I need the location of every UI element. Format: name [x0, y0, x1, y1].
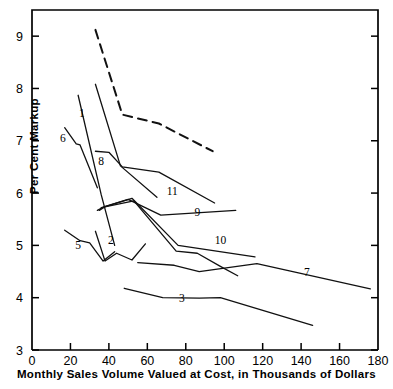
- x-tick-label: 60: [140, 354, 154, 368]
- x-axis-title: Monthly Sales Volume Valued at Cost, in …: [0, 368, 393, 380]
- plot-frame: [32, 10, 378, 350]
- axis-tick-labels: 3456789020406080100120140160180: [16, 30, 388, 368]
- series-label-2: 2: [108, 234, 114, 246]
- series-line-7: [138, 263, 371, 289]
- series-label-7: 7: [304, 266, 310, 278]
- y-axis-title: Per Cent Markup: [28, 86, 40, 206]
- y-tick-label: 9: [16, 30, 23, 44]
- series-label-5: 5: [75, 239, 81, 251]
- x-tick-label: 140: [291, 354, 312, 368]
- x-tick-label: 180: [368, 354, 389, 368]
- y-tick-label: 5: [16, 239, 23, 253]
- x-tick-label: 20: [63, 354, 77, 368]
- series-line-dashed: [95, 30, 212, 151]
- y-tick-label: 3: [16, 344, 23, 358]
- chart-container: 3456789020406080100120140160180 12356789…: [0, 0, 393, 389]
- series-label-9: 9: [194, 206, 200, 218]
- x-tick-label: 120: [252, 354, 273, 368]
- series-label-6: 6: [60, 132, 66, 144]
- y-tick-label: 4: [16, 291, 23, 305]
- series-label-1: 1: [79, 107, 85, 119]
- series-line-10: [99, 198, 255, 257]
- series-line-9: [97, 199, 235, 215]
- series-line-3: [124, 288, 312, 325]
- y-tick-label: 8: [16, 82, 23, 96]
- x-tick-label: 100: [214, 354, 235, 368]
- data-series-group: [65, 30, 371, 326]
- x-tick-label: 160: [329, 354, 350, 368]
- axis-ticks: [32, 36, 378, 350]
- x-tick-label: 80: [179, 354, 193, 368]
- x-tick-label: 0: [29, 354, 36, 368]
- series-label-10: 10: [215, 234, 227, 246]
- series-line-2: [95, 231, 145, 261]
- x-tick-label: 40: [102, 354, 116, 368]
- y-tick-label: 7: [16, 134, 23, 148]
- series-label-8: 8: [98, 155, 104, 167]
- y-tick-label: 6: [16, 187, 23, 201]
- line-chart-plot: 3456789020406080100120140160180 12356789…: [0, 0, 393, 389]
- series-label-3: 3: [179, 292, 185, 304]
- series-label-11: 11: [167, 185, 178, 197]
- series-line-11: [95, 84, 157, 197]
